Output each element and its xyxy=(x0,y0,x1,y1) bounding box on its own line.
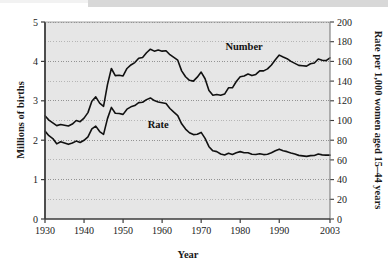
y-right-tick-label: 0 xyxy=(337,214,342,225)
x-tick-label: 1990 xyxy=(269,225,289,236)
y-right-tick-label: 20 xyxy=(337,194,347,205)
y-axis-left-title: Millions of births xyxy=(15,81,26,159)
series-annotation-rate: Rate xyxy=(148,119,169,130)
plot-background xyxy=(45,22,330,219)
x-tick-label: 1950 xyxy=(113,225,133,236)
y-left-tick-label: 5 xyxy=(33,17,38,28)
series-annotation-number: Number xyxy=(225,41,263,52)
x-tick-label: 1940 xyxy=(74,225,94,236)
y-left-tick-label: 0 xyxy=(33,214,38,225)
y-right-tick-label: 80 xyxy=(337,135,347,146)
y-axis-left-tick-labels: 012345 xyxy=(33,17,38,225)
y-right-tick-label: 40 xyxy=(337,174,347,185)
y-left-tick-label: 3 xyxy=(33,95,38,106)
y-left-tick-label: 1 xyxy=(33,174,38,185)
x-tick-label: 1930 xyxy=(35,225,55,236)
x-tick-label: 1980 xyxy=(230,225,250,236)
y-right-tick-label: 60 xyxy=(337,155,347,166)
y-axis-right-title: Rate per 1,000 women aged 15–44 years xyxy=(373,31,384,210)
birth-rate-chart-figure: 012345 020406080100120140160180200 19301… xyxy=(0,0,388,266)
chart-canvas: 012345 020406080100120140160180200 19301… xyxy=(0,0,388,266)
x-axis-tick-labels: 19301940195019601970198019902003 xyxy=(35,225,340,236)
y-axis-right-ticks xyxy=(330,22,334,219)
y-right-tick-label: 140 xyxy=(337,76,352,87)
page-edge-artifact-band xyxy=(88,0,388,7)
y-right-tick-label: 160 xyxy=(337,56,352,67)
y-right-tick-label: 100 xyxy=(337,115,352,126)
x-tick-label: 2003 xyxy=(320,225,340,236)
x-tick-label: 1970 xyxy=(191,225,211,236)
x-tick-label: 1960 xyxy=(152,225,172,236)
y-left-tick-label: 4 xyxy=(33,56,38,67)
x-axis-title: Year xyxy=(178,249,199,260)
y-right-tick-label: 200 xyxy=(337,17,352,28)
y-right-tick-label: 180 xyxy=(337,36,352,47)
y-right-tick-label: 120 xyxy=(337,95,352,106)
y-left-tick-label: 2 xyxy=(33,135,38,146)
y-axis-right-tick-labels: 020406080100120140160180200 xyxy=(337,17,352,225)
